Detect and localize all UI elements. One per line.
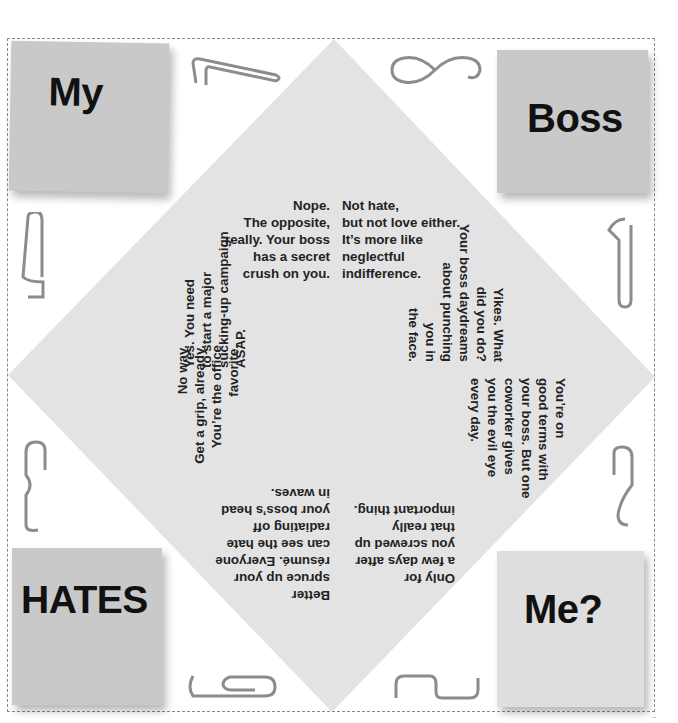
corner-registration-marks: ·· [652, 714, 657, 721]
note-label-boss: Boss [527, 96, 623, 141]
fortune-bottom-right: Only fora few days afteryou screwed upth… [340, 485, 455, 621]
paperclip-icon [390, 672, 485, 702]
paperclip-icon [18, 212, 48, 307]
paperclip-icon [605, 215, 635, 310]
note-label-me: Me? [524, 587, 603, 632]
note-label-my: My [48, 69, 103, 115]
fortune-left-bottom: No way.Get a grip, already.You’re the of… [140, 345, 210, 505]
fortune-left-top: Yes. You needto start a majorsucking-up … [147, 228, 217, 368]
paperclip-icon [188, 55, 283, 90]
paperclip-icon [610, 445, 640, 535]
fortune-right-top: Yikes. Whatdid you do?Your boss daydream… [439, 222, 541, 362]
paperclip-icon [390, 55, 485, 85]
paperclip-icon [185, 672, 280, 702]
sticky-note-hates: HATES [12, 548, 162, 705]
paperclip-icon [20, 440, 50, 535]
sticky-note-me: Me? [497, 551, 644, 707]
fortune-right-bottom: You’re ongood terms withyour boss. But o… [501, 378, 603, 518]
sticky-note-boss: Boss [497, 50, 648, 193]
sticky-note-my: My [9, 41, 170, 194]
note-label-hates: HATES [21, 578, 148, 622]
